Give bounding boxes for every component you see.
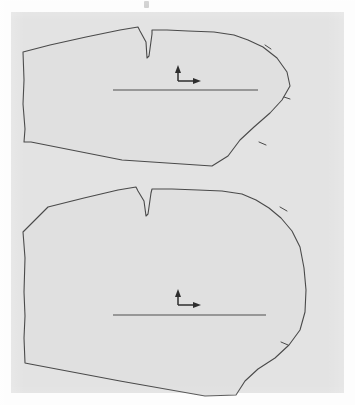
upper-edge-notch-icon	[284, 97, 290, 99]
upper-edge-notch-icon	[259, 142, 266, 145]
pattern-drawing-layer	[0, 0, 355, 405]
upper-piece-fill	[23, 27, 290, 166]
scanned-pattern-page	[0, 0, 355, 405]
lower-piece-fill	[23, 187, 306, 396]
lower-pattern-piece[interactable]	[23, 187, 306, 396]
lower-edge-notch-icon	[280, 207, 287, 211]
upper-pattern-piece[interactable]	[23, 27, 290, 166]
upper-edge-notch-icon	[265, 45, 271, 49]
